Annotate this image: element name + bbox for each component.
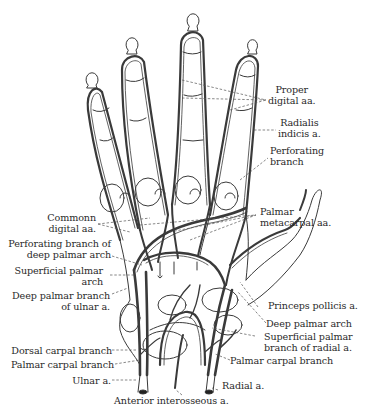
label-princeps-pollicis: Princeps pollicis a. [268,300,358,311]
little-finger-tip [86,73,98,88]
label-perforating-branch: Perforating branch [270,145,324,167]
label-dorsal-carpal-branch: Dorsal carpal branch [11,345,112,356]
label-anterior-interosseous-a: Anterior interosseous a. [114,395,229,406]
label-deep-palmar-arch: Deep palmar arch [266,318,352,329]
label-perforating-branch-deep-arch: Perforating branch of deep palmar arch [8,238,111,260]
label-ulnar-a: Ulnar a. [72,375,111,386]
hand-arteries-diagram: Proper digital aa. Radialis indicis a. P… [0,0,368,411]
label-proper-digital-aa: Proper digital aa. [268,84,316,106]
label-palmar-metacarpal-aa: Palmar metacarpal aa. [260,206,331,228]
label-common-digital-aa: Commonn digital aa. [47,212,96,234]
label-palmar-carpal-branch-right: Palmar carpal branch [230,355,333,366]
label-palmar-carpal-branch-left: Palmar carpal branch [11,359,114,370]
label-superficial-palmar-arch: Superficial palmar arch [14,265,103,287]
label-radial-a: Radial a. [222,380,264,391]
label-superficial-palmar-branch-radial: Superficial palmar branch of radial a. [264,331,353,353]
label-deep-palmar-branch-ulnar: Deep palmar branch of ulnar a. [12,290,110,312]
label-radialis-indicis: Radialis indicis a. [278,117,321,139]
